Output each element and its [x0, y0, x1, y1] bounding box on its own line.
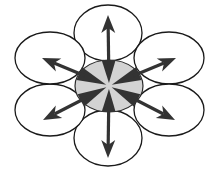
- node-upper-right-ellipse: [134, 32, 204, 84]
- radial-diagram: [0, 0, 215, 170]
- node-upper-left-ellipse: [15, 32, 85, 84]
- center-node: [75, 60, 143, 112]
- node-lower-left-ellipse: [15, 84, 85, 136]
- node-lower-right-ellipse: [134, 84, 204, 136]
